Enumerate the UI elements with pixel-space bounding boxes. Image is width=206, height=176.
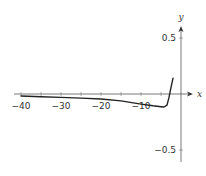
y-tick-label: −0.5 (154, 145, 176, 155)
x-tick-label: −40 (12, 101, 31, 111)
y-axis: y0.5−0.5 (154, 12, 184, 162)
x-tick-label: −20 (92, 101, 111, 111)
y-tick-label: 0.5 (162, 33, 176, 43)
line-chart: x−40−30−20−10 y0.5−0.5 (0, 0, 206, 176)
x-axis-label: x (197, 89, 202, 99)
x-tick-label: −30 (52, 101, 71, 111)
y-axis-label: y (177, 12, 184, 22)
